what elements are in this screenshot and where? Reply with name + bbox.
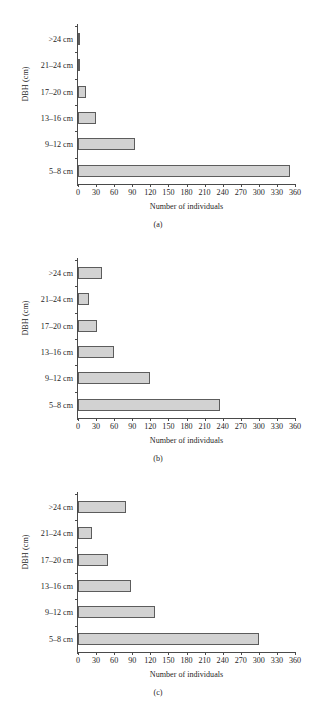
category-label: >24 cm	[48, 269, 73, 278]
category-label: 9–12 cm	[45, 140, 73, 149]
x-tick-mark	[223, 652, 224, 655]
bar-row: 17–20 cm	[78, 313, 295, 339]
subcaption-a: (a)	[0, 220, 316, 229]
plot-panel-b: DBH (cm) >24 cm21–24 cm17–20 cm13–16 cm9…	[0, 248, 316, 448]
bar-row: 21–24 cm	[78, 286, 295, 312]
bar	[78, 372, 150, 384]
bar	[78, 293, 89, 305]
x-tick-mark	[205, 184, 206, 187]
x-axis-title-c: Number of individuals	[78, 670, 295, 679]
x-tick-mark	[295, 184, 296, 187]
plot-panel-c: DBH (cm) >24 cm21–24 cm17–20 cm13–16 cm9…	[0, 482, 316, 682]
x-tick-label: 120	[144, 188, 156, 197]
x-tick-label: 150	[162, 656, 174, 665]
x-tick-label: 270	[235, 422, 247, 431]
x-tick-label: 90	[128, 188, 136, 197]
x-tick-mark	[241, 652, 242, 655]
x-tick-mark	[78, 652, 79, 655]
x-tick-label: 120	[144, 422, 156, 431]
bar	[78, 267, 102, 279]
bar	[78, 320, 97, 332]
x-tick-label: 240	[217, 656, 229, 665]
x-tick-mark	[168, 652, 169, 655]
x-tick-mark	[259, 418, 260, 421]
category-label: 17–20 cm	[41, 555, 73, 564]
x-tick-label: 240	[217, 188, 229, 197]
x-tick-mark	[132, 418, 133, 421]
x-tick-mark	[150, 184, 151, 187]
x-tick-mark	[295, 418, 296, 421]
category-label: 5–8 cm	[49, 634, 73, 643]
x-tick-mark	[241, 184, 242, 187]
x-tick-mark	[114, 652, 115, 655]
x-tick-label: 210	[199, 422, 211, 431]
bar	[78, 527, 92, 539]
plot-area-c: >24 cm21–24 cm17–20 cm13–16 cm9–12 cm5–8…	[78, 494, 295, 652]
x-tick-mark	[132, 652, 133, 655]
bar	[78, 554, 108, 566]
y-axis-title-c: DBH (cm)	[18, 452, 32, 652]
y-tick-mark	[75, 599, 78, 600]
category-label: 17–20 cm	[41, 87, 73, 96]
x-tick-mark	[259, 184, 260, 187]
bar-row: 21–24 cm	[78, 520, 295, 546]
y-tick-mark	[75, 105, 78, 106]
bar	[78, 33, 80, 45]
x-tick-mark	[277, 652, 278, 655]
bar	[78, 138, 135, 150]
x-tick-label: 60	[110, 188, 118, 197]
x-tick-mark	[223, 418, 224, 421]
x-tick-mark	[132, 184, 133, 187]
bar-row: >24 cm	[78, 494, 295, 520]
y-tick-mark	[75, 573, 78, 574]
y-tick-mark	[75, 626, 78, 627]
x-tick-mark	[150, 418, 151, 421]
bar-row: >24 cm	[78, 26, 295, 52]
x-tick-mark	[114, 184, 115, 187]
x-tick-label: 30	[92, 422, 100, 431]
bar-row: 17–20 cm	[78, 79, 295, 105]
x-axis-title-a: Number of individuals	[78, 202, 295, 211]
x-tick-mark	[168, 418, 169, 421]
y-tick-mark	[75, 79, 78, 80]
x-tick-label: 120	[144, 656, 156, 665]
x-tick-label: 240	[217, 422, 229, 431]
x-tick-labels-b: 0306090120150180210240270300330360	[78, 422, 295, 434]
y-tick-mark	[75, 520, 78, 521]
x-tick-mark	[259, 652, 260, 655]
x-tick-label: 300	[253, 188, 265, 197]
bar-row: 17–20 cm	[78, 547, 295, 573]
x-tick-label: 180	[180, 422, 192, 431]
y-tick-mark	[75, 260, 78, 261]
bar	[78, 399, 220, 411]
y-tick-mark	[75, 494, 78, 495]
y-axis-title-a: DBH (cm)	[18, 0, 32, 184]
bar	[78, 633, 259, 645]
plot-panel-a: DBH (cm) >24 cm21–24 cm17–20 cm13–16 cm9…	[0, 14, 316, 214]
x-tick-label: 90	[128, 656, 136, 665]
x-tick-mark	[223, 184, 224, 187]
x-tick-label: 150	[162, 188, 174, 197]
top-spacer	[0, 0, 316, 14]
bar-row: 5–8 cm	[78, 158, 295, 184]
x-axis-title-b: Number of individuals	[78, 436, 295, 445]
x-tick-mark	[96, 652, 97, 655]
x-tick-mark	[187, 652, 188, 655]
x-tick-label: 60	[110, 422, 118, 431]
bar-row: 9–12 cm	[78, 131, 295, 157]
bar	[78, 501, 126, 513]
x-tick-mark	[96, 184, 97, 187]
figure-panel-b: DBH (cm) >24 cm21–24 cm17–20 cm13–16 cm9…	[0, 248, 316, 482]
figure-panel-c: DBH (cm) >24 cm21–24 cm17–20 cm13–16 cm9…	[0, 482, 316, 703]
x-tick-mark	[187, 418, 188, 421]
x-tick-mark	[205, 652, 206, 655]
x-tick-label: 180	[180, 656, 192, 665]
y-tick-mark	[75, 313, 78, 314]
bar	[78, 580, 131, 592]
x-tick-label: 210	[199, 188, 211, 197]
bar-row: >24 cm	[78, 260, 295, 286]
x-tick-labels-c: 0306090120150180210240270300330360	[78, 656, 295, 668]
plot-area-a: >24 cm21–24 cm17–20 cm13–16 cm9–12 cm5–8…	[78, 26, 295, 184]
y-tick-mark	[75, 339, 78, 340]
bar-row: 13–16 cm	[78, 573, 295, 599]
